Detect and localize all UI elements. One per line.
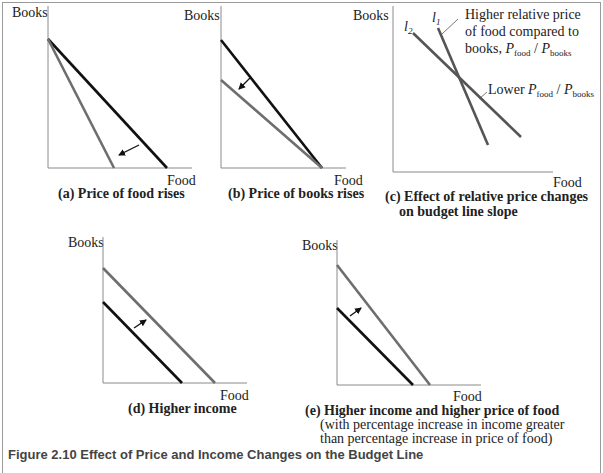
- new-budget-line: [103, 268, 215, 383]
- original-budget-line: [103, 302, 182, 383]
- note-higher-line1: Higher relative price: [465, 7, 581, 22]
- panel-caption: (b) Price of books rises: [228, 186, 365, 202]
- panel-c: Books l1 l2 Higher relative price of foo…: [353, 6, 595, 219]
- panel-b: Books Food (b) Price of books rises: [184, 6, 365, 202]
- panel-d: Books Food (d) Higher income: [68, 235, 249, 417]
- shift-arrow-icon: [119, 145, 139, 155]
- shift-arrow-icon: [239, 78, 250, 89]
- panel-caption-line3: than percentage increase in price of foo…: [320, 431, 553, 447]
- original-budget-line: [48, 39, 167, 168]
- x-axis-label: Food: [553, 175, 582, 190]
- shift-arrow-icon: [134, 320, 146, 328]
- original-budget-line: [221, 40, 322, 168]
- panel-e: Books Food (e) Higher income and higher …: [302, 238, 565, 447]
- leader-line: [479, 92, 487, 99]
- new-budget-line: [337, 265, 430, 385]
- note-higher-line2: of food compared to: [465, 24, 579, 39]
- y-axis-label: Books: [184, 8, 220, 23]
- panel-caption-line2: on budget line slope: [399, 204, 518, 219]
- x-axis-label: Food: [453, 389, 482, 404]
- l2-label: l2: [404, 19, 413, 36]
- note-lower: Lower Pfood / Pbooks: [488, 82, 595, 99]
- figure-caption: Figure 2.10 Effect of Price and Income C…: [8, 447, 423, 462]
- panel-caption: (a) Price of food rises: [58, 186, 185, 202]
- panel-caption-line1: (c) Effect of relative price changes: [385, 189, 589, 205]
- new-budget-line: [221, 80, 322, 168]
- panel-caption: (d) Higher income: [128, 401, 237, 417]
- note-higher-line3: books, Pfood / Pbooks: [465, 41, 572, 58]
- panel-a: Books Food (a) Price of food rises: [12, 5, 196, 202]
- y-axis-label: Books: [68, 235, 104, 250]
- new-budget-line: [48, 39, 114, 168]
- y-axis-label: Books: [353, 8, 389, 23]
- l1-label: l1: [432, 10, 440, 27]
- y-axis-label: Books: [302, 238, 338, 253]
- leader-line: [442, 19, 458, 34]
- shift-arrow-icon: [350, 308, 361, 316]
- y-axis-label: Books: [12, 5, 48, 20]
